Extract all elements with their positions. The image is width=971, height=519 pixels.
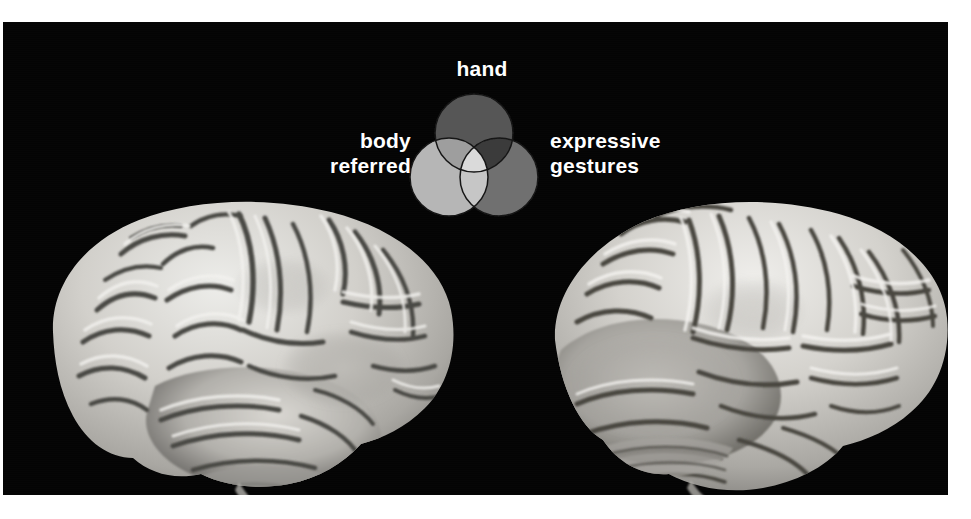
figure-root: hand body referred expressive gestures — [0, 0, 971, 519]
venn-label-expressive-gestures: expressive gestures — [550, 128, 750, 178]
brain-render-right — [543, 190, 948, 495]
brain-render-left — [43, 190, 463, 495]
figure-image-panel: hand body referred expressive gestures — [3, 22, 948, 495]
venn-diagram — [401, 88, 557, 224]
venn-label-body-referred: body referred — [233, 128, 411, 178]
venn-label-hand: hand — [417, 56, 547, 81]
